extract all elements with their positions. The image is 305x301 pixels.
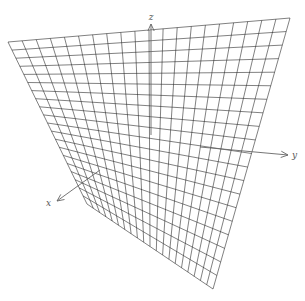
mesh-line-v [64, 37, 112, 221]
mesh-line-v [8, 42, 87, 204]
z-axis-label: z [148, 12, 154, 22]
surface-wireframe-mesh [8, 18, 290, 289]
mesh-line-v [213, 18, 290, 289]
mesh-line-v [188, 23, 234, 272]
y-axis [200, 147, 288, 155]
mesh-line-v [22, 41, 93, 208]
saddle-surface-figure: z y x [0, 0, 305, 301]
x-axis-label: x [46, 198, 51, 208]
mesh-line-v [207, 19, 276, 285]
mesh-line-v [36, 40, 99, 213]
mesh-line-v [182, 24, 220, 268]
y-axis-label: y [291, 150, 298, 160]
